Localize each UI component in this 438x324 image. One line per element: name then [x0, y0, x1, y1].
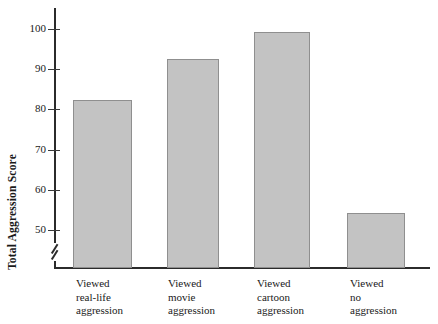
- y-axis-title: Total Aggression Score: [0, 0, 24, 324]
- y-tick-label-wrap: 50: [14, 223, 46, 237]
- y-tick-label: 70: [20, 143, 46, 155]
- category-label: Viewed cartoon aggression: [257, 277, 304, 318]
- y-tick-label: 90: [20, 62, 46, 74]
- y-tick-70: [48, 150, 60, 151]
- bar: [167, 59, 219, 268]
- bar: [347, 213, 405, 268]
- y-tick-90: [48, 69, 60, 70]
- y-tick-80: [48, 109, 60, 110]
- category-label: Viewed no aggression: [350, 277, 397, 318]
- y-tick-label: 50: [20, 223, 46, 235]
- y-tick-100: [48, 29, 60, 30]
- bar-chart: Total Aggression Score 5060708090100 Vie…: [0, 0, 438, 324]
- y-tick-label-wrap: 100: [14, 22, 46, 36]
- y-tick-label: 80: [20, 102, 46, 114]
- category-label: Viewed real-life aggression: [76, 277, 123, 318]
- y-tick-label-wrap: 80: [14, 102, 46, 116]
- y-tick-60: [48, 190, 60, 191]
- axis-break-icon: [47, 243, 63, 261]
- y-tick-label: 60: [20, 183, 46, 195]
- bar: [73, 100, 132, 268]
- bar: [254, 32, 310, 268]
- category-label: Viewed movie aggression: [168, 277, 215, 318]
- y-tick-50: [48, 230, 60, 231]
- y-tick-label-wrap: 90: [14, 62, 46, 76]
- y-tick-label: 100: [20, 22, 46, 34]
- y-tick-label-wrap: 60: [14, 183, 46, 197]
- y-tick-label-wrap: 70: [14, 143, 46, 157]
